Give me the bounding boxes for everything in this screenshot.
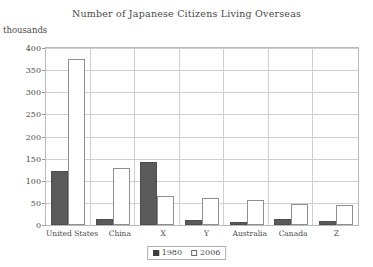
- x-axis-tick-label: United States: [46, 229, 98, 238]
- y-axis-tick-mark: [42, 159, 45, 160]
- bar-group: [313, 48, 358, 225]
- y-axis-tick-label: 400: [1, 44, 41, 53]
- bar-2006: [336, 205, 353, 225]
- chart-container: Number of Japanese Citizens Living Overs…: [0, 0, 373, 267]
- bar-2006: [113, 168, 130, 225]
- bars-layer: [46, 48, 358, 225]
- legend-label-2006: 2006: [200, 248, 220, 257]
- bar-group: [180, 48, 225, 225]
- x-axis-tick-label: Y: [185, 229, 228, 238]
- bar-group: [135, 48, 180, 225]
- y-axis-tick-label: 150: [1, 154, 41, 163]
- bar-2006: [202, 198, 219, 225]
- bar-group: [224, 48, 269, 225]
- y-axis-tick-label: 250: [1, 110, 41, 119]
- y-axis-tick-label: 0: [1, 221, 41, 230]
- y-axis-tick-mark: [42, 48, 45, 49]
- legend-label-1980: 1980: [162, 248, 182, 257]
- bar-1980: [51, 171, 68, 225]
- x-axis-tick-label: China: [98, 229, 141, 238]
- y-axis-unit-label: thousands: [3, 25, 47, 35]
- y-axis-tick-mark: [42, 137, 45, 138]
- bar-1980: [319, 221, 336, 225]
- y-axis-tick-mark: [42, 203, 45, 204]
- bar-group: [91, 48, 136, 225]
- bar-group: [269, 48, 314, 225]
- x-axis-tick-label: Canada: [271, 229, 314, 238]
- y-axis-tick-mark: [42, 92, 45, 93]
- legend-item-2006: 2006: [191, 248, 220, 257]
- legend-item-1980: 1980: [153, 248, 182, 257]
- bar-2006: [68, 59, 85, 225]
- y-axis-tick-label: 300: [1, 88, 41, 97]
- x-axis-tick-label: Z: [315, 229, 358, 238]
- y-axis-tick-mark: [42, 70, 45, 71]
- chart-legend: 1980 2006: [147, 246, 227, 260]
- bar-2006: [291, 204, 308, 225]
- y-axis-tick-label: 350: [1, 66, 41, 75]
- open-square-icon: [191, 250, 197, 256]
- bar-2006: [247, 200, 264, 225]
- y-axis-tick-mark: [42, 114, 45, 115]
- y-axis-tick-label: 100: [1, 176, 41, 185]
- bar-1980: [140, 162, 157, 225]
- bar-1980: [274, 219, 291, 225]
- bar-1980: [230, 222, 247, 225]
- y-axis-tick-label: 50: [1, 198, 41, 207]
- y-axis-tick-mark: [42, 181, 45, 182]
- bar-1980: [185, 220, 202, 225]
- y-axis-tick-mark: [42, 225, 45, 226]
- y-axis-tick-label: 200: [1, 132, 41, 141]
- chart-title: Number of Japanese Citizens Living Overs…: [0, 8, 373, 19]
- x-axis: United StatesChinaXYAustraliaCanadaZ: [46, 229, 358, 238]
- x-axis-tick-label: X: [141, 229, 184, 238]
- x-axis-tick-label: Australia: [228, 229, 271, 238]
- filled-square-icon: [153, 250, 159, 256]
- bar-1980: [96, 219, 113, 225]
- bar-group: [46, 48, 91, 225]
- bar-2006: [157, 196, 174, 225]
